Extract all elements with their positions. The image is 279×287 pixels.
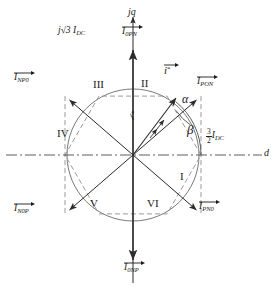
vector-np0-label: INP0: [14, 68, 36, 82]
d-axis-label: d: [264, 147, 269, 158]
reference-vector-line: [133, 98, 176, 155]
vector-0np-sub: 0NP: [127, 266, 139, 273]
vector-0pn-label: I0PN: [122, 22, 144, 36]
vector-arrow-icon: [199, 200, 221, 204]
sector-label-i: I: [180, 170, 184, 182]
vector-arrow-icon: [124, 261, 146, 265]
sector-label-iv: IV: [57, 127, 69, 139]
vector-n0p-label: IN0P: [14, 199, 36, 213]
diagram-canvas: [0, 0, 279, 287]
horizontal-magnitude-sub: DC: [215, 134, 224, 141]
fraction-three-halves: 3 2: [206, 128, 212, 144]
vector-0np-label: I0NP: [124, 258, 146, 272]
vector-np0-sub: NP0: [17, 76, 29, 83]
vector-arrow-icon: [122, 25, 144, 29]
vertical-magnitude-text: j√3 I: [58, 25, 76, 35]
vector-arrow-icon: [197, 75, 219, 79]
reference-vector-label-tip: i*: [164, 60, 180, 76]
vector-pn0-label: IPN0: [199, 197, 221, 211]
sector-label-v: V: [90, 197, 98, 209]
sector-label-ii: II: [141, 77, 148, 89]
alpha-angle-label: α: [182, 92, 188, 107]
vector-pon-sub: PON: [200, 80, 213, 87]
sector-label-iii: III: [93, 78, 104, 90]
sector-label-vi: VI: [147, 197, 159, 209]
vector-n0p-line: [70, 155, 134, 210]
vector-n0p-sub: N0P: [17, 207, 29, 214]
vector-pn0-sub: PN0: [202, 205, 214, 212]
space-vector-diagram: jq d j√3 IDC 3 2 IDC IPON I0PN INP0 IN0P…: [0, 0, 279, 287]
vector-0pn-sub: 0PN: [125, 30, 137, 37]
vector-np0-line: [70, 100, 134, 155]
vertical-magnitude-sub: DC: [76, 29, 85, 36]
vector-arrow-icon: [14, 202, 36, 206]
horizontal-magnitude-label: 3 2 IDC: [206, 128, 224, 144]
beta-angle-label: β: [187, 122, 193, 138]
fraction-denominator: 2: [206, 137, 212, 145]
jq-axis-label: jq: [128, 6, 136, 17]
reference-vector-superscript: *: [167, 65, 171, 73]
vertical-magnitude-label: j√3 IDC: [58, 25, 85, 35]
vector-pon-label: IPON: [197, 72, 219, 86]
vector-pn0-line: [133, 155, 197, 210]
vector-arrow-icon: [14, 71, 36, 75]
